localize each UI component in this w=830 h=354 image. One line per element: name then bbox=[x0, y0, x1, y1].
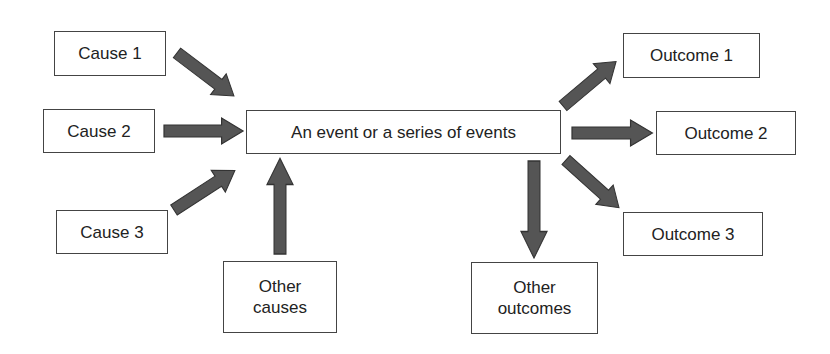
cause-2-label: Cause 2 bbox=[67, 121, 130, 142]
outcome-1-box: Outcome 1 bbox=[623, 33, 760, 78]
arrow-cause3-to-event bbox=[167, 160, 242, 221]
other-causes-label-line1: Other bbox=[259, 276, 302, 297]
cause-1-label: Cause 1 bbox=[78, 43, 141, 64]
cause-2-box: Cause 2 bbox=[43, 109, 155, 153]
arrow-event-to-outcome2 bbox=[572, 120, 653, 146]
other-outcomes-box: Other outcomes bbox=[471, 262, 598, 334]
arrow-event-to-otheroutcomes bbox=[521, 161, 547, 258]
event-box: An event or a series of events bbox=[246, 110, 561, 154]
outcome-3-box: Outcome 3 bbox=[623, 212, 763, 256]
cause-1-box: Cause 1 bbox=[54, 31, 166, 76]
arrow-cause1-to-event bbox=[169, 43, 242, 107]
arrow-event-to-outcome1 bbox=[555, 51, 625, 115]
other-causes-label-line2: causes bbox=[253, 297, 307, 318]
outcome-1-label: Outcome 1 bbox=[650, 45, 733, 66]
cause-3-label: Cause 3 bbox=[80, 222, 143, 243]
other-outcomes-label-line2: outcomes bbox=[498, 298, 572, 319]
arrow-othercauses-to-event bbox=[267, 158, 293, 254]
other-outcomes-label-line1: Other bbox=[513, 277, 556, 298]
outcome-2-box: Outcome 2 bbox=[656, 111, 796, 155]
outcome-2-label: Outcome 2 bbox=[684, 123, 767, 144]
outcome-3-label: Outcome 3 bbox=[651, 224, 734, 245]
arrow-event-to-outcome3 bbox=[557, 150, 627, 217]
arrow-cause2-to-event bbox=[164, 118, 243, 144]
cause-3-box: Cause 3 bbox=[56, 210, 168, 254]
other-causes-box: Other causes bbox=[223, 261, 337, 333]
event-label: An event or a series of events bbox=[291, 122, 516, 143]
